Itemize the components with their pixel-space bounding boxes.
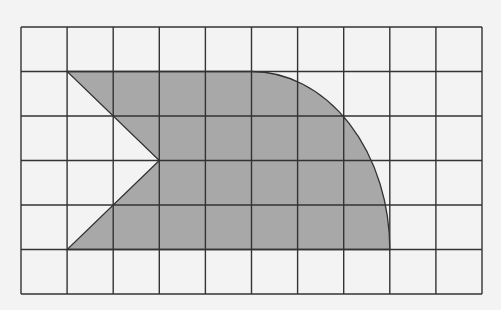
grid-diagram [0,0,501,310]
grid-lines [21,27,482,294]
